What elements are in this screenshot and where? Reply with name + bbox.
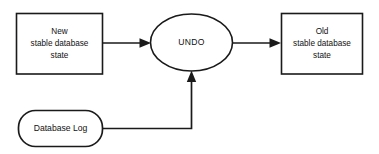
new-state-label-line1: New xyxy=(51,27,67,36)
node-undo[interactable]: UNDO xyxy=(151,14,233,71)
node-database-log[interactable]: Database Log xyxy=(19,111,103,147)
edge-undo-to-old-state-arrowhead xyxy=(270,38,282,48)
new-state-label-line2: stable database xyxy=(31,39,89,48)
old-state-label-line1: Old xyxy=(316,27,329,36)
edge-database-log-to-undo-arrowhead xyxy=(187,71,196,83)
edge-undo-to-old-state xyxy=(233,38,282,48)
database-log-label: Database Log xyxy=(34,123,88,133)
undo-label: UNDO xyxy=(178,37,205,47)
new-state-label-line3: state xyxy=(51,51,69,60)
edge-database-log-to-undo-line xyxy=(103,78,192,129)
flowchart-svg: New stable database state UNDO Old stabl… xyxy=(0,0,379,154)
old-state-label-line3: state xyxy=(313,51,331,60)
node-new-stable-database-state[interactable]: New stable database state xyxy=(17,14,103,75)
edge-database-log-to-undo xyxy=(103,71,197,129)
diagram-canvas: New stable database state UNDO Old stabl… xyxy=(0,0,379,154)
edge-new-state-to-undo xyxy=(103,38,152,48)
old-state-label-line2: stable database xyxy=(293,39,351,48)
node-old-stable-database-state[interactable]: Old stable database state xyxy=(282,14,363,75)
edge-new-state-to-undo-arrowhead xyxy=(140,38,152,48)
